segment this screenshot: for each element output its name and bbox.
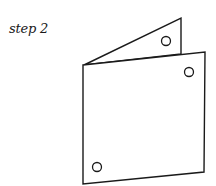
folded-paper-diagram <box>0 0 216 186</box>
